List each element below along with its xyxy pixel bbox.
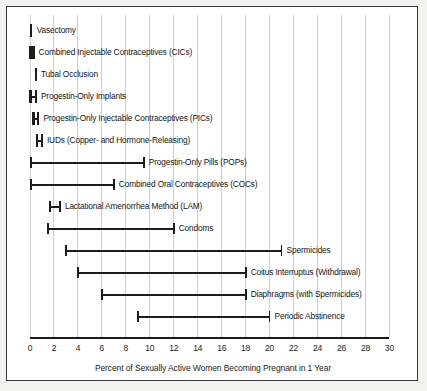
range-high-cap: [113, 179, 115, 190]
plot-area: 024681012141618202224262830Percent of Se…: [7, 7, 419, 382]
x-axis-title: Percent of Sexually Active Women Becomin…: [7, 363, 419, 373]
range-low-cap: [32, 112, 34, 125]
x-tick-label-18: 18: [234, 343, 258, 353]
chart-frame: 024681012141618202224262830Percent of Se…: [6, 6, 418, 381]
range-row: Progestin-Only Implants: [7, 87, 419, 107]
range-high-cap: [281, 245, 283, 256]
range-label: IUDs (Copper- and Hormone-Releasing): [47, 135, 190, 145]
range-bar: [31, 184, 114, 186]
range-row: Spermicides: [7, 241, 419, 261]
x-tick-label-26: 26: [329, 343, 353, 353]
range-row: IUDs (Copper- and Hormone-Releasing): [7, 131, 419, 151]
x-tick-label-28: 28: [353, 343, 377, 353]
range-row: Combined Oral Contraceptives (COCs): [7, 175, 419, 195]
range-high-cap: [41, 134, 43, 147]
x-tick-label-24: 24: [306, 343, 330, 353]
x-tick-label-2: 2: [42, 343, 66, 353]
x-tick-label-14: 14: [186, 343, 210, 353]
range-bar: [138, 316, 270, 318]
range-low-cap: [77, 267, 79, 278]
range-bar: [102, 294, 246, 296]
range-bar: [31, 162, 144, 164]
range-label: Progestin-Only Pills (POPs): [149, 157, 247, 167]
figure-canvas: 024681012141618202224262830Percent of Se…: [0, 0, 427, 391]
range-bar: [66, 250, 282, 252]
range-label: Vasectomy: [37, 25, 76, 35]
range-label: Spermicides: [287, 245, 331, 255]
range-label: Combined Injectable Contraceptives (CICs…: [39, 47, 192, 57]
range-high-cap: [173, 223, 175, 234]
range-row: Lactational Amenorrhea Method (LAM): [7, 197, 419, 217]
x-tick-label-8: 8: [114, 343, 138, 353]
x-tick-label-22: 22: [282, 343, 306, 353]
range-label: Lactational Amenorrhea Method (LAM): [65, 201, 202, 211]
range-low-cap: [65, 245, 67, 256]
range-high-cap: [245, 267, 247, 278]
range-row: Vasectomy: [7, 21, 419, 41]
range-low-cap: [30, 157, 32, 168]
range-low-cap: [137, 311, 139, 322]
x-tick-label-0: 0: [18, 343, 42, 353]
range-low-cap: [36, 134, 38, 147]
range-row: Condoms: [7, 219, 419, 239]
range-low-cap: [101, 289, 103, 300]
range-high-cap: [59, 201, 61, 212]
range-low-cap: [47, 223, 49, 234]
range-high-cap: [37, 112, 39, 125]
range-row: Combined Injectable Contraceptives (CICs…: [7, 43, 419, 63]
x-tick-label-30: 30: [377, 343, 401, 353]
range-bar: [48, 228, 174, 230]
range-label: Progestin-Only Injectable Contraceptives…: [43, 113, 212, 123]
range-low-cap: [49, 201, 51, 212]
range-row: Progestin-Only Pills (POPs): [7, 153, 419, 173]
range-high-cap: [35, 90, 37, 103]
range-high-cap: [245, 289, 247, 300]
range-label: Periodic Abstinence: [275, 311, 345, 321]
range-low-cap: [35, 68, 37, 81]
range-high-cap: [269, 311, 271, 322]
x-tick-label-16: 16: [210, 343, 234, 353]
range-row: Progestin-Only Injectable Contraceptives…: [7, 109, 419, 129]
x-tick-label-10: 10: [138, 343, 162, 353]
range-bar: [78, 272, 246, 274]
range-row: Periodic Abstinence: [7, 307, 419, 327]
range-row: Coitus Interruptus (Withdrawal): [7, 263, 419, 283]
range-high-cap: [32, 46, 34, 59]
range-label: Combined Oral Contraceptives (COCs): [119, 179, 258, 189]
range-label: Tubal Occlusion: [41, 69, 98, 79]
range-label: Condoms: [179, 223, 213, 233]
range-label: Progestin-Only Implants: [41, 91, 126, 101]
range-label: Diaphragms (with Spermicides): [251, 289, 362, 299]
x-tick-label-4: 4: [66, 343, 90, 353]
range-high-cap: [143, 157, 145, 168]
range-low-cap: [30, 179, 32, 190]
range-row: Diaphragms (with Spermicides): [7, 285, 419, 305]
x-tick-label-6: 6: [90, 343, 114, 353]
range-label: Coitus Interruptus (Withdrawal): [251, 267, 361, 277]
range-low-cap: [30, 24, 32, 37]
range-low-cap: [29, 46, 31, 59]
x-tick-label-20: 20: [258, 343, 282, 353]
range-row: Tubal Occlusion: [7, 65, 419, 85]
x-tick-label-12: 12: [162, 343, 186, 353]
range-low-cap: [29, 90, 31, 103]
x-axis-line: [30, 337, 389, 339]
